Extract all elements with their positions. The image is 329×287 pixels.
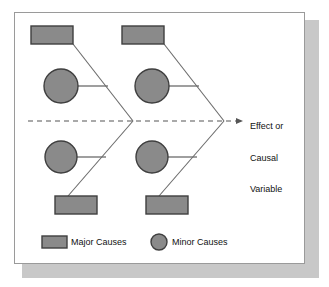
rib-upper-right: [164, 44, 224, 121]
effect-label-line-1: Effect or: [250, 121, 283, 132]
minor-cause-circle-top-left: [44, 69, 78, 103]
rib-upper-left: [73, 44, 133, 121]
minor-cause-circle-top-right: [135, 69, 169, 103]
minor-cause-circle-bottom-left: [45, 141, 77, 173]
effect-variable-label: Effect or Causal Variable: [250, 100, 283, 216]
legend-minor-causes-swatch: [151, 234, 167, 250]
rib-lower-left: [68, 121, 133, 196]
minor-cause-circle-bottom-right: [136, 141, 168, 173]
legend-minor-causes-label: Minor Causes: [172, 237, 228, 248]
major-cause-box-top-right: [122, 26, 164, 44]
effect-label-line-3: Variable: [250, 184, 283, 195]
fishbone-diagram-figure: Effect or Causal Variable Major Causes M…: [0, 0, 329, 287]
legend-major-causes-swatch: [42, 236, 67, 248]
major-cause-box-top-left: [31, 26, 73, 44]
major-cause-box-bottom-right: [146, 196, 188, 214]
rib-lower-right: [159, 121, 224, 196]
effect-label-line-2: Causal: [250, 153, 283, 164]
major-cause-box-bottom-left: [55, 196, 97, 214]
legend-major-causes-label: Major Causes: [71, 237, 127, 248]
